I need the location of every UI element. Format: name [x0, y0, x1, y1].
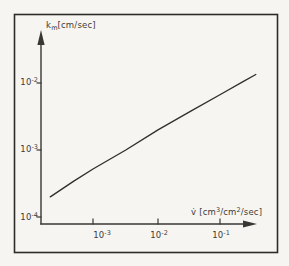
- tick-exponent: -1: [223, 229, 229, 237]
- y-tick-label-1e-3: 10-3: [20, 144, 38, 156]
- x-axis-label: v̇ [cm3/cm2/sec]: [191, 207, 262, 219]
- tick-base: 10: [20, 77, 31, 87]
- y-axis-arrowhead: [37, 30, 44, 45]
- tick-exponent: -4: [32, 211, 38, 219]
- y-tick-label-1e-2: 10-2: [20, 77, 38, 89]
- tick-base: 10: [20, 212, 31, 222]
- figure-scan: km[cm/sec] 10-2 10-3 10-4 10-3 10-2 10-1…: [0, 0, 289, 266]
- x-axis-unit-exponent: 2: [237, 206, 241, 214]
- tick-exponent: -2: [32, 76, 38, 84]
- y-axis-unit: [cm/sec]: [57, 20, 95, 30]
- tick-base: 10: [212, 230, 223, 240]
- y-axis-label: km[cm/sec]: [46, 20, 96, 32]
- x-axis-arrowhead: [243, 220, 257, 227]
- x-tick-label-1e-3: 10-3: [93, 230, 111, 242]
- x-tick-label-1e-1: 10-1: [212, 230, 230, 242]
- x-tick-label-1e-2: 10-2: [150, 230, 168, 242]
- km-vs-flux-curve: [50, 75, 256, 197]
- x-axis-unit-part: [cm: [196, 207, 216, 217]
- x-axis-unit-part: /sec]: [241, 207, 263, 217]
- tick-base: 10: [150, 230, 161, 240]
- tick-base: 10: [20, 144, 31, 154]
- plot-canvas: [0, 0, 289, 266]
- x-axis-unit-part: /cm: [220, 207, 236, 217]
- tick-exponent: -2: [161, 229, 167, 237]
- tick-exponent: -3: [104, 229, 110, 237]
- tick-exponent: -3: [32, 143, 38, 151]
- x-axis-unit-exponent: 3: [216, 206, 220, 214]
- y-tick-label-1e-4: 10-4: [20, 212, 38, 224]
- y-axis-symbol-subscript: m: [51, 24, 57, 32]
- tick-base: 10: [93, 230, 104, 240]
